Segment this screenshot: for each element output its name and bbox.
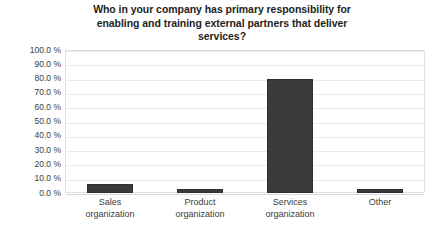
bar-slot	[357, 50, 403, 193]
bar[interactable]	[267, 79, 313, 193]
x-axis-tick-label-line: Sales	[99, 197, 122, 207]
x-axis-tick-label-line: organization	[85, 209, 134, 219]
chart-title-line: enabling and training external partners …	[97, 17, 348, 29]
y-axis-tick-label: 90.0 %	[0, 60, 61, 69]
x-axis-tick-label: Other	[335, 197, 425, 209]
y-axis-tick-label: 20.0 %	[0, 160, 61, 169]
chart-title-line: Who in your company has primary responsi…	[93, 3, 351, 15]
y-axis-tick-label: 100.0 %	[0, 46, 61, 55]
gridline	[66, 194, 424, 195]
chart-title: Who in your company has primary responsi…	[46, 3, 398, 44]
y-axis-tick-label: 30.0 %	[0, 146, 61, 155]
bar[interactable]	[87, 184, 133, 193]
y-axis: 100.0 %90.0 %80.0 %70.0 %60.0 %50.0 %40.…	[0, 50, 61, 193]
bar[interactable]	[357, 189, 403, 193]
x-axis-tick-label-line: Other	[369, 197, 392, 207]
x-axis-tick-label-line: organization	[175, 209, 224, 219]
y-axis-tick-label: 40.0 %	[0, 131, 61, 140]
y-axis-tick-label: 80.0 %	[0, 74, 61, 83]
x-axis: SalesorganizationProductorganizationServ…	[65, 197, 425, 245]
chart-title-line: services?	[198, 30, 246, 42]
bar-slot	[267, 50, 313, 193]
x-axis-tick-label: Productorganization	[155, 197, 245, 220]
bar[interactable]	[177, 189, 223, 193]
y-axis-tick-label: 10.0 %	[0, 174, 61, 183]
bars-layer	[65, 50, 425, 193]
y-axis-tick-label: 60.0 %	[0, 103, 61, 112]
y-axis-tick-label: 70.0 %	[0, 88, 61, 97]
x-axis-tick-label-line: Services	[273, 197, 308, 207]
x-axis-tick-label: Servicesorganization	[245, 197, 335, 220]
bar-slot	[87, 50, 133, 193]
x-axis-tick-label: Salesorganization	[65, 197, 155, 220]
y-axis-tick-label: 50.0 %	[0, 117, 61, 126]
bar-chart: Who in your company has primary responsi…	[0, 0, 444, 250]
x-axis-tick-label-line: Product	[184, 197, 215, 207]
bar-slot	[177, 50, 223, 193]
y-axis-tick-label: 0.0 %	[0, 189, 61, 198]
x-axis-tick-label-line: organization	[265, 209, 314, 219]
